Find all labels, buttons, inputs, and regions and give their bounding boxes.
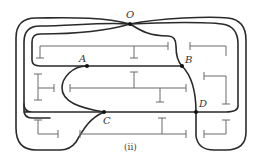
node-B — [180, 64, 184, 68]
label-D: D — [198, 98, 207, 109]
label-O: O — [126, 9, 134, 20]
path-A-C — [62, 66, 104, 112]
node-A — [85, 64, 89, 68]
node-D — [194, 110, 198, 114]
figure-caption: (ii) — [124, 142, 137, 152]
wall-segments — [34, 42, 230, 138]
label-C: C — [103, 115, 111, 126]
label-A: A — [78, 53, 86, 64]
maze-diagram: O A B C D (ii) — [0, 0, 260, 159]
outer-loop-right — [130, 17, 246, 150]
path-O-B — [130, 24, 182, 66]
node-O — [128, 22, 132, 26]
middle-loop-left — [24, 23, 130, 118]
path-left-C-D — [24, 104, 196, 112]
node-C — [102, 110, 106, 114]
label-B: B — [184, 54, 192, 65]
path-B-D — [182, 66, 196, 112]
